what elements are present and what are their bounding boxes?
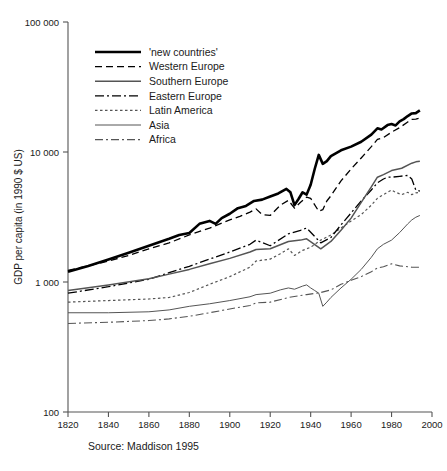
series-group [68,110,420,323]
x-tick-label: 1920 [260,419,281,430]
legend-label: Western Europe [149,60,225,72]
y-tick-label: 100 000 [25,17,59,28]
legend-label: Africa [149,133,176,145]
source-note: Source: Maddison 1995 [88,440,199,452]
x-tick-label: 1840 [98,419,119,430]
series-line-new-countries [68,110,420,271]
x-tick-label: 1960 [341,419,362,430]
x-tick-label: 1860 [138,419,159,430]
y-tick-label: 1 000 [35,277,59,288]
x-tick-label: 1940 [300,419,321,430]
legend-label: Eastern Europe [149,90,222,102]
x-axis-ticks: 1820184018601880190019201940196019802000 [57,412,442,430]
series-line-southern-europe [68,161,420,290]
gdp-per-capita-line-chart: 1001 00010 000100 000 182018401860188019… [0,0,447,471]
series-line-asia [68,215,420,312]
legend-label: Latin America [149,104,213,116]
legend-label: Southern Europe [149,75,229,87]
series-line-africa [68,264,420,324]
x-tick-label: 1820 [57,419,78,430]
legend-label: Asia [149,119,170,131]
y-axis-title: GDP per capita (in 1990 $ US) [13,149,24,284]
y-tick-label: 10 000 [30,147,59,158]
x-tick-label: 1980 [381,419,402,430]
legend-label: 'new countries' [149,46,218,58]
y-axis-ticks: 1001 00010 000100 000 [25,17,68,418]
legend: 'new countries'Western EuropeSouthern Eu… [95,46,229,146]
x-tick-label: 2000 [421,419,442,430]
chart-figure: 1001 00010 000100 000 182018401860188019… [0,0,447,471]
x-tick-label: 1900 [219,419,240,430]
y-tick-label: 100 [43,407,59,418]
x-tick-label: 1880 [179,419,200,430]
